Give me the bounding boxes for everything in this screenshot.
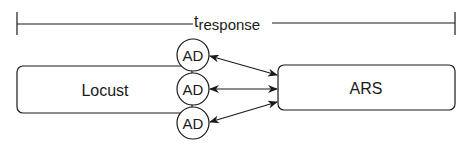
response-time-span: tresponse xyxy=(17,12,455,35)
arrow-ad1-ars xyxy=(210,56,277,75)
ad-node-3: AD xyxy=(177,107,209,139)
diagram-canvas: tresponse Locust ARS AD AD AD xyxy=(0,0,468,150)
timeline-label-subscript: response xyxy=(198,16,260,33)
arrow-ad3-ars xyxy=(210,102,277,122)
ad-label: AD xyxy=(183,47,204,64)
locust-node: Locust xyxy=(17,66,192,113)
timeline-label: tresponse xyxy=(194,13,260,33)
ad-label: AD xyxy=(183,115,204,132)
ars-node: ARS xyxy=(278,65,455,110)
ad-label: AD xyxy=(183,81,204,98)
ad-node-1: AD xyxy=(177,39,209,71)
ad-ars-connections xyxy=(210,56,277,122)
ad-node-2: AD xyxy=(177,73,209,105)
ars-label: ARS xyxy=(350,80,383,97)
locust-label: Locust xyxy=(81,82,129,99)
